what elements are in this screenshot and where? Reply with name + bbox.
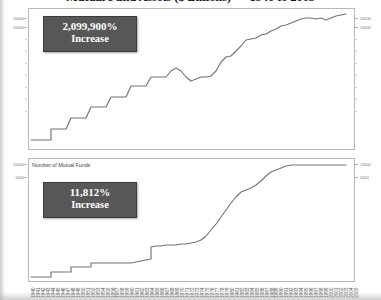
assets-minortick-left-2 [25,51,27,52]
funds-increase-word: Increase [44,199,136,211]
assets-minortick-left-5 [25,87,27,88]
funds-plot-area [28,158,355,282]
funds-ytick-10000-right: 10000 [360,162,381,167]
assets-minortick-left-3 [25,63,27,64]
fund-count-panel: 10000 5000 10000 5000 Number of Mutual F… [0,158,381,288]
assets-panel: 20000 10000 20000 10000 [0,8,381,156]
assets-tick-left-1 [24,18,27,19]
assets-increase-callout: 2,099,900% Increase [43,16,137,52]
x-axis-tick-label: 2005 [353,288,359,298]
assets-minortick-left-4 [25,75,27,76]
assets-minortick-left-6 [25,99,27,100]
assets-tick-left-2 [24,27,27,28]
assets-ytick-10000-right: 10000 [360,25,381,30]
x-axis-tick-labels: 1940194119421943194419451946194719481949… [0,281,381,300]
assets-minortick-left-7 [25,111,27,112]
funds-increase-value: 11,812% [44,186,136,199]
assets-increase-word: Increase [44,33,136,45]
assets-ytick-20000-left: 20000 [2,16,24,21]
funds-tick-left-2 [24,177,27,178]
funds-ytick-5000-right: 5000 [360,175,381,180]
assets-ytick-10000-left: 10000 [2,25,24,30]
assets-minortick-left-1 [25,39,27,40]
funds-series-svg [29,159,356,283]
assets-increase-value: 2,099,900% [44,20,136,33]
funds-ytick-5000-left: 5000 [2,175,24,180]
page-gutter-shadow [0,0,5,300]
funds-tick-left-1 [24,164,27,165]
funds-increase-callout: 11,812% Increase [43,182,137,218]
chart-page: Mutual Fund Assets ($ Billions) — 1940 t… [0,0,381,300]
funds-series-caption: Number of Mutual Funds [32,162,90,168]
page-title: Mutual Fund Assets ($ Billions) — 1940 t… [0,0,381,4]
assets-ytick-20000-right: 20000 [360,16,381,21]
chart-title-strip: Mutual Fund Assets ($ Billions) — 1940 t… [0,0,381,5]
funds-ytick-10000-left: 10000 [2,162,24,167]
